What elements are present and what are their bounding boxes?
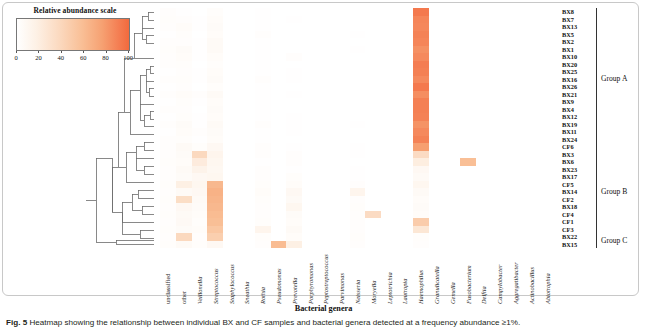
heatmap-cell — [160, 233, 176, 241]
heatmap-cell — [286, 181, 302, 189]
heatmap-cell — [476, 98, 492, 106]
heatmap-cell — [176, 38, 192, 46]
heatmap-cell — [397, 23, 413, 31]
heatmap-cell — [381, 113, 397, 121]
heatmap-cell — [365, 151, 381, 159]
heatmap-cell — [207, 76, 223, 84]
heatmap-cell — [302, 211, 318, 219]
row-label: BX24 — [562, 136, 596, 144]
heatmap-cell — [429, 128, 445, 136]
heatmap-cell — [413, 83, 429, 91]
heatmap-cell — [255, 166, 271, 174]
heatmap-cell — [176, 166, 192, 174]
heatmap-cell — [334, 61, 350, 69]
heatmap-cell — [381, 226, 397, 234]
heatmap-cell — [255, 91, 271, 99]
heatmap-cell — [350, 158, 366, 166]
heatmap-cell — [429, 38, 445, 46]
heatmap-cell — [508, 121, 524, 129]
heatmap-cell — [539, 106, 555, 114]
column-labels: unclassifiedotherVeillonellaStreptococcu… — [160, 248, 560, 304]
heatmap-cell — [444, 241, 460, 249]
heatmap-cell — [223, 241, 239, 249]
heatmap-cell — [318, 218, 334, 226]
heatmap-cell — [381, 98, 397, 106]
heatmap-cell — [176, 181, 192, 189]
heatmap-cell — [302, 121, 318, 129]
heatmap-cell — [192, 98, 208, 106]
heatmap-cell — [523, 91, 539, 99]
heatmap-cell — [160, 173, 176, 181]
heatmap-cell — [255, 113, 271, 121]
heatmap-cell — [239, 158, 255, 166]
heatmap-cell — [255, 143, 271, 151]
heatmap-cell — [160, 113, 176, 121]
heatmap-cell — [334, 196, 350, 204]
heatmap-cell — [381, 181, 397, 189]
heatmap-cell — [429, 218, 445, 226]
heatmap-cell — [539, 8, 555, 16]
heatmap-cell — [381, 83, 397, 91]
heatmap-cell — [444, 53, 460, 61]
heatmap-cell — [160, 143, 176, 151]
column-label: Rothia — [259, 287, 266, 304]
heatmap-row — [160, 211, 555, 219]
heatmap-cell — [397, 8, 413, 16]
heatmap-cell — [176, 106, 192, 114]
heatmap-cell — [334, 241, 350, 249]
heatmap-cell — [223, 136, 239, 144]
heatmap-row — [160, 166, 555, 174]
heatmap-cell — [460, 61, 476, 69]
column-label: Aggregatibacter — [512, 262, 519, 304]
heatmap-cell — [271, 143, 287, 151]
heatmap-cell — [429, 31, 445, 39]
heatmap-cell — [508, 23, 524, 31]
heatmap-row — [160, 98, 555, 106]
heatmap-cell — [476, 23, 492, 31]
heatmap-cell — [318, 173, 334, 181]
figure-panel: Relative abundance scale 020406080100 — [0, 0, 647, 335]
heatmap-cell — [176, 121, 192, 129]
heatmap-row — [160, 233, 555, 241]
heatmap-cell — [192, 211, 208, 219]
row-label: BX7 — [562, 16, 596, 24]
heatmap-cell — [413, 91, 429, 99]
heatmap-cell — [539, 143, 555, 151]
heatmap-cell — [160, 91, 176, 99]
heatmap-cell — [492, 166, 508, 174]
heatmap-row — [160, 128, 555, 136]
heatmap-cell — [223, 181, 239, 189]
heatmap-cell — [476, 196, 492, 204]
heatmap-cell — [508, 68, 524, 76]
heatmap-cell — [476, 38, 492, 46]
heatmap-cell — [302, 46, 318, 54]
heatmap-cell — [302, 151, 318, 159]
heatmap-cell — [302, 173, 318, 181]
heatmap-cell — [223, 31, 239, 39]
heatmap-cell — [192, 106, 208, 114]
heatmap-cell — [413, 136, 429, 144]
heatmap-cell — [207, 158, 223, 166]
heatmap-cell — [271, 46, 287, 54]
heatmap-cell — [271, 203, 287, 211]
heatmap-cell — [492, 233, 508, 241]
heatmap-cell — [492, 31, 508, 39]
heatmap-cell — [429, 23, 445, 31]
heatmap-cell — [444, 226, 460, 234]
heatmap-cell — [302, 128, 318, 136]
heatmap-cell — [334, 53, 350, 61]
heatmap-cell — [302, 76, 318, 84]
row-label: BX13 — [562, 23, 596, 31]
heatmap-cell — [444, 91, 460, 99]
heatmap-cell — [350, 113, 366, 121]
heatmap-cell — [271, 196, 287, 204]
heatmap-row — [160, 68, 555, 76]
heatmap-cell — [365, 68, 381, 76]
heatmap-cell — [286, 241, 302, 249]
heatmap-cell — [192, 53, 208, 61]
heatmap-cell — [286, 61, 302, 69]
heatmap-cell — [397, 241, 413, 249]
heatmap-cell — [239, 31, 255, 39]
heatmap-cell — [429, 173, 445, 181]
heatmap-cell — [302, 188, 318, 196]
